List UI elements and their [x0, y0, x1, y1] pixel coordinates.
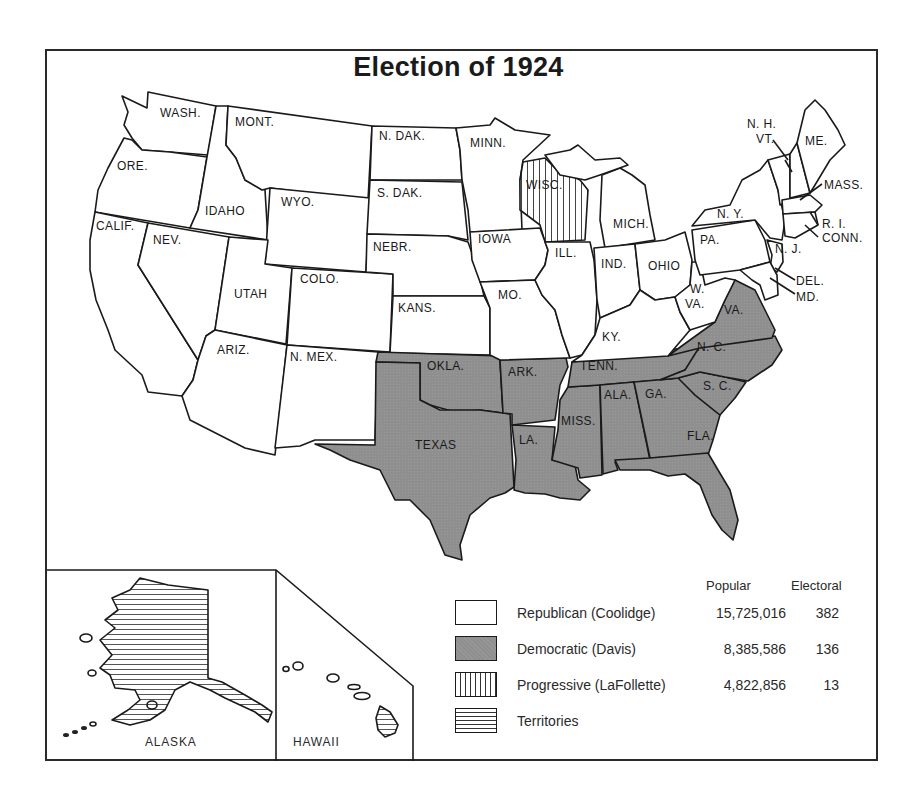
- label-iowa: IOWA: [478, 232, 511, 246]
- label-calif: CALIF.: [96, 219, 134, 233]
- label-colo: COLO.: [300, 272, 339, 286]
- label-nev: NEV.: [153, 233, 182, 247]
- legend-header-electoral: Electoral: [791, 578, 842, 593]
- label-me: ME.: [805, 134, 828, 148]
- label-ill: ILL.: [555, 246, 577, 260]
- legend-label: Progressive (LaFollette): [517, 677, 666, 693]
- label-pa: PA.: [700, 233, 720, 247]
- legend-popular: 4,822,856: [695, 677, 786, 693]
- label-ri: R. I.: [822, 217, 846, 231]
- label-nh: N. H.: [747, 117, 776, 131]
- label-mass: MASS.: [824, 178, 863, 192]
- label-conn: CONN.: [822, 231, 863, 245]
- alaska-label: ALASKA: [145, 735, 197, 749]
- legend-label: Territories: [517, 713, 578, 729]
- label-fla: FLA.: [687, 429, 714, 443]
- label-nj: N. J.: [775, 242, 802, 256]
- label-wva-1: W.: [690, 282, 705, 296]
- label-ala: ALA.: [604, 388, 632, 402]
- label-mich: MICH.: [613, 217, 649, 231]
- label-ndak: N. DAK.: [379, 129, 425, 143]
- label-ky: KY.: [602, 330, 621, 344]
- legend-popular: 8,385,586: [695, 641, 786, 657]
- legend-electoral: 136: [785, 641, 839, 657]
- label-ny: N. Y.: [717, 207, 744, 221]
- label-minn: MINN.: [470, 136, 506, 150]
- label-la: LA.: [519, 433, 538, 447]
- swatch-democratic: [455, 636, 497, 661]
- label-wisc: WISC.: [526, 178, 563, 192]
- label-texas: TEXAS: [415, 438, 456, 452]
- inset-hawaii[interactable]: [283, 662, 398, 737]
- label-utah: UTAH: [234, 287, 267, 301]
- label-kans: KANS.: [398, 301, 436, 315]
- legend-header-popular: Popular: [706, 578, 751, 593]
- label-nmex: N. MEX.: [290, 350, 337, 364]
- label-ind: IND.: [601, 257, 627, 271]
- legend-electoral: 382: [785, 605, 839, 621]
- legend-row-democratic: Democratic (Davis) 8,385,586 136: [455, 636, 875, 662]
- label-ore: ORE.: [117, 159, 148, 173]
- swatch-republican: [455, 600, 497, 625]
- state-fla[interactable]: [615, 453, 738, 540]
- label-miss: MISS.: [561, 414, 596, 428]
- swatch-territories: [455, 708, 497, 733]
- label-va: VA.: [724, 303, 744, 317]
- legend-row-republican: Republican (Coolidge) 15,725,016 382: [455, 600, 875, 626]
- label-wyo: WYO.: [281, 195, 315, 209]
- label-sc: S. C.: [703, 379, 732, 393]
- legend-row-progressive: Progressive (LaFollette) 4,822,856 13: [455, 672, 875, 698]
- label-ark: ARK.: [508, 365, 538, 379]
- label-mo: MO.: [498, 288, 522, 302]
- label-ga: GA.: [645, 387, 667, 401]
- label-sdak: S. DAK.: [377, 186, 422, 200]
- label-ariz: ARIZ.: [217, 343, 250, 357]
- label-del: DEL.: [796, 274, 824, 288]
- label-mont: MONT.: [235, 115, 274, 129]
- label-wva-2: VA.: [685, 297, 705, 311]
- legend-row-territories: Territories: [455, 708, 875, 734]
- label-tenn: TENN.: [580, 359, 618, 373]
- label-md: MD.: [796, 290, 819, 304]
- legend-label: Republican (Coolidge): [517, 605, 656, 621]
- hawaii-label: HAWAII: [293, 735, 340, 749]
- legend-label: Democratic (Davis): [517, 641, 636, 657]
- label-nebr: NEBR.: [373, 240, 412, 254]
- inset-alaska[interactable]: [63, 578, 272, 737]
- swatch-progressive: [455, 672, 497, 697]
- label-idaho: IDAHO: [205, 204, 245, 218]
- label-vt: VT.: [756, 132, 775, 146]
- label-wash: WASH.: [160, 106, 201, 120]
- label-okla: OKLA.: [427, 359, 464, 373]
- legend-electoral: 13: [785, 677, 839, 693]
- label-nc: N. C.: [697, 340, 726, 354]
- label-ohio: OHIO: [648, 259, 680, 273]
- legend-popular: 15,725,016: [695, 605, 786, 621]
